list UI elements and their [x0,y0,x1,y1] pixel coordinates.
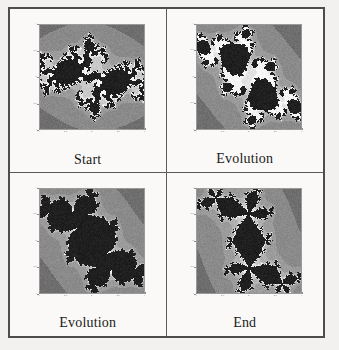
y-tick-label: -1 [28,129,37,132]
y-tickmark [194,214,196,215]
y-tick-label: 1 [28,186,37,189]
y-tick-label: -0.5 [185,266,194,269]
x-tick-label: 1 [301,131,302,134]
fractal-canvas-end [197,189,301,293]
axes-start: -1-0.500.5110.50-0.5-1 [27,20,149,142]
plot-area-evolution-2: -1-0.500.5110.50-0.5-1 [10,173,166,315]
x-tick-label: 1 [144,131,145,134]
y-tickmark [37,51,39,52]
y-tickmark [194,24,196,25]
x-tick-label: 0 [248,295,249,298]
x-tick-label: 0.5 [117,295,120,298]
y-tickmark [194,188,196,189]
x-tick-label: 0.5 [274,295,277,298]
fractal-plot-evolution-1 [196,24,302,130]
y-tickmark [194,241,196,242]
x-tick-label: 0.5 [274,131,277,134]
y-tickmark [37,294,39,295]
y-tickmark [37,188,39,189]
fractal-canvas-start [40,25,144,129]
x-tick-label: -1 [38,131,40,134]
panel-evolution-2: -1-0.500.5110.50-0.5-1 Evolution [10,173,167,337]
fractal-plot-evolution-2 [39,188,145,294]
panel-evolution-1: -1-0.500.5110.50-0.5-1 Evolution [167,9,324,173]
y-tick-label: 0 [185,75,194,78]
plot-area-end: -1-0.500.5110.50-0.5-1 [167,173,324,315]
y-tickmark [194,77,196,78]
panel-end: -1-0.500.5110.50-0.5-1 End [167,173,324,337]
x-tick-label: -0.5 [220,131,224,134]
fractal-plot-start [39,24,145,130]
y-tick-label: 0.5 [28,49,37,52]
y-tick-label: 1 [28,23,37,26]
y-tick-label: -0.5 [28,266,37,269]
x-tick-label: -0.5 [63,295,67,298]
x-tick-label: 1 [301,295,302,298]
plot-area-start: -1-0.500.5110.50-0.5-1 [10,9,166,151]
plot-area-evolution-1: -1-0.500.5110.50-0.5-1 [167,9,324,150]
y-tickmark [194,50,196,51]
axes-end: -1-0.500.5110.50-0.5-1 [184,184,306,306]
axes-evolution-1: -1-0.500.5110.50-0.5-1 [184,20,306,142]
x-tick-label: -0.5 [63,131,67,134]
y-tick-label: -0.5 [28,102,37,105]
fractal-plot-end [196,188,302,294]
x-tick-label: -0.5 [220,295,224,298]
panel-start: -1-0.500.5110.50-0.5-1 Start [10,9,167,173]
y-tick-label: 0 [28,239,37,242]
y-tick-label: -1 [28,292,37,295]
y-tickmark [37,24,39,25]
y-tickmark [37,241,39,242]
y-tick-label: 1 [185,22,194,25]
y-tick-label: 0.5 [185,213,194,216]
y-tickmark [37,267,39,268]
x-tick-label: 0.5 [117,131,120,134]
panel-caption-evolution-2: Evolution [59,314,116,336]
y-tickmark [37,214,39,215]
y-tickmark [194,294,196,295]
y-tickmark [194,267,196,268]
axes-evolution-2: -1-0.500.5110.50-0.5-1 [27,184,149,306]
x-tick-label: 0 [91,295,92,298]
y-tickmark [194,130,196,131]
y-tickmark [194,103,196,104]
x-tick-label: 1 [144,295,145,298]
x-tick-label: -1 [195,131,197,134]
y-tickmark [37,77,39,78]
x-tick-label: -1 [38,295,40,298]
y-tick-label: 1 [185,186,194,189]
y-tick-label: 0 [185,239,194,242]
fractal-canvas-evolution-1 [197,25,301,129]
y-tickmark [37,104,39,105]
x-tick-label: -1 [195,295,197,298]
x-tick-label: 0 [248,131,249,134]
panel-caption-end: End [233,314,256,336]
y-tick-label: -1 [185,128,194,131]
y-tick-label: -1 [185,292,194,295]
panel-caption-evolution-1: Evolution [216,150,273,172]
panel-caption-start: Start [74,151,101,172]
fractal-canvas-evolution-2 [40,189,144,293]
x-tick-label: 0 [91,131,92,134]
panel-grid: -1-0.500.5110.50-0.5-1 Start -1-0.500.51… [10,9,323,336]
y-tick-label: 0.5 [185,49,194,52]
y-tick-label: -0.5 [185,102,194,105]
y-tickmark [37,130,39,131]
y-tick-label: 0.5 [28,213,37,216]
figure-frame: -1-0.500.5110.50-0.5-1 Start -1-0.500.51… [8,7,325,338]
y-tick-label: 0 [28,76,37,79]
